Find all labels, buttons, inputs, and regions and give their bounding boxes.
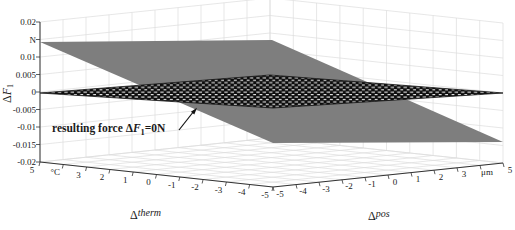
z-axis-label-subscript: 1 bbox=[6, 84, 15, 88]
tick-label: 0.01 bbox=[20, 52, 36, 62]
grid-line bbox=[39, 162, 40, 166]
tick-label: -4 bbox=[238, 187, 246, 197]
grid-line bbox=[179, 177, 180, 181]
grid-line bbox=[365, 177, 366, 181]
tick-label: 2 bbox=[439, 172, 444, 182]
floor-grid bbox=[40, 138, 503, 187]
tick-label: -0.005 bbox=[13, 105, 37, 115]
grid-line bbox=[411, 173, 412, 177]
z-axis-ticks bbox=[36, 22, 40, 162]
grid-line bbox=[319, 182, 320, 186]
grid-line bbox=[249, 185, 250, 189]
pos-axis-label: Δpos bbox=[368, 208, 390, 223]
grid-line bbox=[132, 172, 133, 176]
tick-label: °C bbox=[50, 167, 60, 177]
annotation-symbol: F bbox=[132, 122, 141, 134]
grid-line bbox=[434, 170, 435, 174]
grid-line bbox=[202, 180, 203, 184]
grid-line bbox=[457, 168, 458, 172]
tick-label: 0 bbox=[146, 177, 151, 187]
grid-line bbox=[62, 165, 63, 169]
tick-label: -1 bbox=[168, 180, 176, 190]
annotation-arrow bbox=[179, 108, 197, 130]
annotation-suffix: =0N bbox=[145, 122, 166, 134]
tick-label: 1 bbox=[123, 175, 128, 185]
tick-label: -2 bbox=[191, 182, 199, 192]
grid-line bbox=[503, 163, 504, 167]
tick-label: 3 bbox=[462, 169, 467, 179]
grid-line bbox=[296, 185, 297, 189]
tick-label: -5 bbox=[261, 190, 269, 200]
tick-label: 3 bbox=[76, 170, 81, 180]
therm-axis-tick-labels: 5°C3210-1-2-3-4-5 bbox=[30, 165, 269, 200]
tick-label: N bbox=[30, 35, 37, 45]
tick-label: 0 bbox=[32, 87, 37, 97]
therm-axis-label-sup: therm bbox=[138, 207, 161, 218]
grid-line bbox=[109, 170, 110, 174]
therm-axis-label: Δtherm bbox=[130, 207, 161, 222]
tick-label: 0.005 bbox=[16, 70, 37, 80]
pos-axis-label-sup: pos bbox=[375, 208, 390, 219]
tick-label: -1 bbox=[368, 179, 376, 189]
tick-label: μm bbox=[481, 167, 493, 177]
grid-line bbox=[225, 182, 226, 186]
grid-line bbox=[342, 180, 343, 184]
tick-label: -0.01 bbox=[17, 122, 36, 132]
tick-label: -0.015 bbox=[13, 140, 37, 150]
tick-label: 1 bbox=[416, 174, 421, 184]
tick-label: -5 bbox=[276, 189, 284, 199]
tick-label: 2 bbox=[100, 172, 105, 182]
tick-label: -3 bbox=[215, 185, 223, 195]
z-axis-tick-labels: 0.02N0.010.0050-0.005-0.01-0.015-0.02 bbox=[13, 17, 37, 167]
tick-label: 0 bbox=[393, 177, 398, 187]
pos-axis-ticks bbox=[273, 163, 504, 191]
tick-label: 5 bbox=[508, 165, 513, 175]
3d-surface-plot: 0.02N0.010.0050-0.005-0.01-0.015-0.02 5°… bbox=[0, 0, 515, 230]
grid-line bbox=[273, 187, 274, 191]
grid-line bbox=[156, 175, 157, 179]
grid-line bbox=[388, 175, 389, 179]
tick-label: -3 bbox=[322, 184, 330, 194]
annotation-prefix: resulting force Δ bbox=[52, 122, 134, 135]
tick-label: 5 bbox=[30, 165, 35, 175]
3d-surface-figure: 0.02N0.010.0050-0.005-0.01-0.015-0.02 5°… bbox=[0, 0, 515, 230]
z-axis-label: ΔF1 bbox=[0, 84, 15, 103]
tick-label: -4 bbox=[299, 186, 307, 196]
grid-line bbox=[86, 167, 87, 171]
tick-label: -2 bbox=[345, 181, 353, 191]
tick-label: 0.02 bbox=[20, 17, 36, 27]
